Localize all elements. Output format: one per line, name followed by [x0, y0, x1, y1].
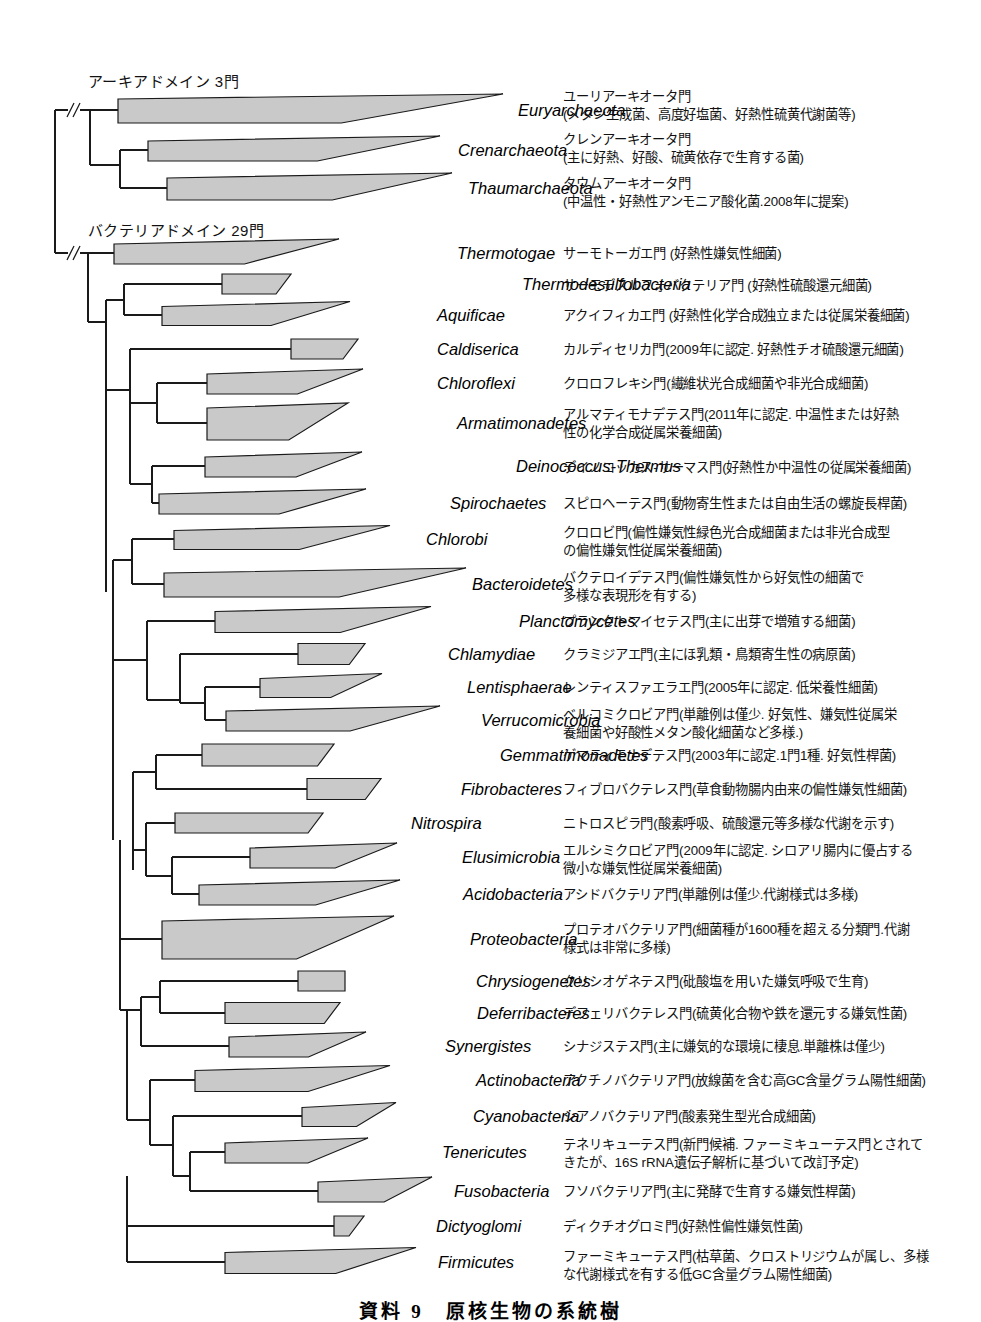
taxon-label: Firmicutes: [438, 1253, 514, 1272]
clade-wedge: [250, 843, 397, 868]
taxon-label: Chlamydiae: [448, 645, 535, 664]
phylum-description: クレンアーキオータ門 (主に好熱、好酸、硫黄依存で生育する菌): [563, 131, 804, 168]
clade-wedge: [207, 403, 348, 440]
phylum-description: ファーミキューテス門(枯草菌、クロストリジウムが属し、多様 な代謝様式を有する低…: [563, 1248, 929, 1285]
phylum-description: クラミジアエ門(主にほ乳類・鳥類寄生性の病原菌): [563, 646, 855, 664]
clade-wedge: [195, 1066, 390, 1092]
phylum-description: ニトロスピラ門(酸素呼吸、硫酸還元等多様な代謝を示す): [563, 815, 894, 833]
taxon-label: Dictyoglomi: [436, 1217, 521, 1236]
phylum-description: サーモデスルフォバクテリア門 (好熱性硫酸還元細菌): [563, 277, 872, 295]
clade-wedge: [175, 813, 323, 833]
taxon-label: Bacteroidetes: [472, 575, 573, 594]
taxon-label: Nitrospira: [411, 814, 482, 833]
phylum-description: アルマティモナデテス門(2011年に認定. 中温性または好熱 性の化学合成従属栄…: [563, 406, 898, 443]
taxon-label: Acidobacteria: [463, 885, 563, 904]
taxon-label: Tenericutes: [442, 1143, 527, 1162]
clade-wedge: [302, 1103, 396, 1127]
clade-wedge: [205, 452, 362, 477]
phylum-description: エルシミクロビア門(2009年に認定. シロアリ腸内に優占する 微小な嫌気性従属…: [563, 842, 913, 879]
taxon-label: Elusimicrobia: [462, 848, 560, 867]
clade-wedge: [148, 136, 440, 161]
phylum-description: サーモトーガエ門 (好熱性嫌気性細菌): [563, 245, 782, 263]
phylum-description: プランクトマイセテス門(主に出芽で増殖する細菌): [563, 613, 855, 631]
clade-wedge: [226, 706, 440, 731]
phylum-description: クロロフレキシ門(繊維状光合成細菌や非光合成細菌): [563, 375, 868, 393]
phylum-description: デイノコッカス-サーマス門(好熱性か中温性の従属栄養細菌): [563, 459, 911, 477]
phylum-description: アクイフィカエ門 (好熱性化学合成独立または従属栄養細菌): [563, 307, 910, 325]
phylum-description: ゲマティモナデテス門(2003年に認定.1門1種. 好気性桿菌): [563, 747, 896, 765]
phylum-description: カルディセリカ門(2009年に認定. 好熱性チオ硫酸還元細菌): [563, 341, 904, 359]
clade-wedge: [260, 674, 382, 698]
clade-wedge: [229, 1032, 366, 1057]
phylum-description: クロロビ門(偏性嫌気性緑色光合成細菌または非光合成型 の偏性嫌気性従属栄養細菌): [563, 524, 890, 561]
clade-wedge: [334, 1216, 364, 1236]
phylum-description: フソバクテリア門(主に発酵で生育する嫌気性桿菌): [563, 1183, 855, 1201]
taxon-label: Thermotogae: [457, 244, 555, 263]
domain-heading-archaea: アーキアドメイン 3門: [88, 70, 239, 91]
phylum-description: ベルコミクロビア門(単離例は僅少. 好気性、嫌気性従属栄 養細菌や好酸性メタン酸…: [563, 706, 897, 743]
clade-wedge: [298, 644, 365, 665]
clade-wedge: [207, 369, 363, 394]
taxon-label: Chlorobi: [426, 530, 487, 549]
clade-wedge: [118, 94, 503, 123]
phylum-description: スピロヘーテス門(動物寄生性または自由生活の螺旋長桿菌): [563, 495, 907, 513]
phylum-description: アクチノバクテリア門(放線菌を含む高GC含量グラム陽性細菌): [563, 1072, 926, 1090]
taxon-label: Proteobacteria: [470, 930, 577, 949]
phylum-description: タウムアーキオータ門 (中温性・好熱性アンモニア酸化菌.2008年に提案): [563, 175, 849, 212]
clade-wedge: [225, 1138, 368, 1163]
clade-wedge: [162, 916, 394, 959]
break-mark-icon: [67, 103, 80, 117]
taxon-label: Crenarchaeota: [458, 141, 567, 160]
figure-caption: 資料 9 原核生物の系統樹: [0, 1296, 981, 1322]
phylum-description: テネリキューテス門(新門候補. ファーミキューテス門とされて きたが、16S r…: [563, 1136, 923, 1173]
clade-wedge: [164, 568, 466, 597]
taxon-label: Synergistes: [445, 1037, 531, 1056]
clade-wedge: [159, 489, 366, 514]
phylum-description: フィブロバクテレス門(草食動物腸内由来の偏性嫌気性細菌): [563, 781, 907, 799]
phylum-description: シナジステス門(主に嫌気的な環境に棲息.単離株は僅少): [563, 1038, 885, 1056]
clade-wedge: [162, 302, 350, 326]
clade-wedge: [174, 526, 390, 550]
phylum-description: アシドバクテリア門(単離例は僅少.代謝様式は多様): [563, 886, 858, 904]
break-mark-icon: [67, 246, 80, 260]
taxon-label: Fusobacteria: [454, 1182, 549, 1201]
clade-wedge: [291, 339, 358, 359]
clade-wedge: [298, 971, 345, 991]
phylum-description: デフェリバクテレス門(硫黄化合物や鉄を還元する嫌気性菌): [563, 1005, 907, 1023]
taxon-label: Chloroflexi: [437, 374, 515, 393]
taxon-label: Caldiserica: [437, 340, 519, 359]
taxon-label: Fibrobacteres: [461, 780, 562, 799]
branch-break-marks: [67, 103, 80, 260]
clade-wedge: [318, 1177, 432, 1202]
phylum-description: ディクチオグロミ門(好熱性偏性嫌気性菌): [563, 1218, 803, 1236]
taxon-label: Aquificae: [437, 306, 505, 325]
clade-wedge: [225, 1003, 340, 1024]
clade-wedge: [202, 744, 334, 766]
clade-wedge: [114, 239, 339, 264]
phylum-description: バクテロイデテス門(偏性嫌気性から好気性の細菌で 多様な表現形を有する): [563, 569, 864, 606]
clade-wedge: [199, 880, 400, 905]
domain-heading-bacteria: バクテリアドメイン 29門: [88, 219, 264, 240]
phylum-description: プロテオバクテリア門(細菌種が1600種を超える分類門.代謝 様式は非常に多様): [563, 921, 910, 958]
taxon-label: Spirochaetes: [450, 494, 546, 513]
clade-wedge: [225, 1248, 416, 1274]
phylum-description: ユーリアーキオータ門 (メタン生成菌、高度好塩菌、好熱性硫黄代謝菌等): [563, 88, 855, 125]
phylum-description: クリシオゲネテス門(砒酸塩を用いた嫌気呼吸で生育): [563, 973, 868, 991]
clade-wedges: [114, 94, 503, 1274]
clade-wedge: [222, 274, 291, 294]
phylogenetic-tree-figure: アーキアドメイン 3門バクテリアドメイン 29門 EuryarchaeotaCr…: [0, 0, 981, 1322]
clade-wedge: [307, 779, 381, 800]
clade-wedge: [215, 607, 431, 633]
phylum-description: シアノバクテリア門(酸素発生型光合成細菌): [563, 1108, 816, 1126]
phylum-description: レンティスファエラエ門(2005年に認定. 低栄養性細菌): [563, 679, 878, 697]
taxon-label: Lentisphaerae: [467, 678, 572, 697]
clade-wedge: [167, 173, 452, 200]
